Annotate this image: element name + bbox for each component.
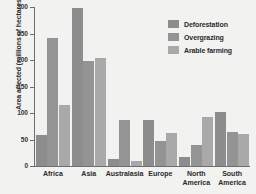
legend-label: Arable farming bbox=[184, 47, 232, 54]
bar bbox=[108, 159, 119, 166]
legend-swatch-icon bbox=[168, 20, 179, 28]
bar bbox=[59, 105, 70, 166]
bar bbox=[36, 135, 47, 166]
y-tick-label: 300 bbox=[2, 4, 28, 11]
chart-legend: DeforestationOvergrazingArable farming bbox=[168, 18, 254, 57]
bar-group bbox=[72, 7, 106, 166]
bar bbox=[166, 133, 177, 166]
legend-item: Overgrazing bbox=[168, 31, 254, 43]
y-tick-mark bbox=[30, 87, 34, 88]
y-tick-label: 250 bbox=[2, 31, 28, 38]
bar bbox=[227, 132, 238, 166]
y-tick-mark bbox=[30, 60, 34, 61]
y-tick-mark bbox=[30, 34, 34, 35]
x-axis-labels: AfricaAsiaAustralasiaEuropeNorth America… bbox=[35, 169, 250, 193]
bar bbox=[143, 120, 154, 166]
bar bbox=[191, 145, 202, 166]
bar bbox=[179, 157, 190, 166]
bar-group bbox=[108, 7, 142, 166]
legend-swatch-icon bbox=[168, 33, 179, 41]
y-tick-label: 100 bbox=[2, 110, 28, 117]
bar bbox=[202, 117, 213, 166]
y-tick-mark bbox=[30, 113, 34, 114]
bar bbox=[119, 120, 130, 166]
y-tick-label: 200 bbox=[2, 57, 28, 64]
bar bbox=[238, 134, 249, 166]
y-tick-mark bbox=[30, 7, 34, 8]
legend-swatch-icon bbox=[168, 46, 179, 54]
y-tick-label: 150 bbox=[2, 84, 28, 91]
legend-item: Deforestation bbox=[168, 18, 254, 30]
y-tick-mark bbox=[30, 140, 34, 141]
bar bbox=[131, 161, 142, 166]
bar bbox=[155, 141, 166, 166]
legend-label: Overgrazing bbox=[184, 34, 224, 41]
bar bbox=[72, 8, 83, 166]
y-tick-mark bbox=[30, 166, 34, 167]
y-tick-label: 50 bbox=[2, 137, 28, 144]
bar-chart: Area affected (millions of hectares) 050… bbox=[0, 0, 256, 194]
legend-label: Deforestation bbox=[184, 21, 228, 28]
bar bbox=[47, 38, 58, 166]
x-axis-label: South America bbox=[208, 169, 256, 187]
bar bbox=[215, 112, 226, 166]
bar bbox=[83, 61, 94, 166]
y-tick-label: 0 bbox=[2, 163, 28, 170]
bar-group bbox=[36, 7, 70, 166]
legend-item: Arable farming bbox=[168, 44, 254, 56]
bar bbox=[95, 58, 106, 166]
